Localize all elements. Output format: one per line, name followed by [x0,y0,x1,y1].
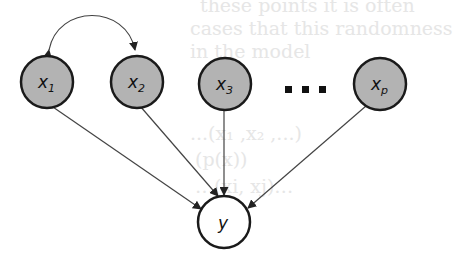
edge-x1-x2-bidirected [49,16,135,51]
edge-x1-y [50,105,201,209]
node-x3: x3 [199,58,251,110]
node-x2: x2 [111,56,163,108]
node-y: y [198,196,250,248]
ellipsis-dots [285,86,326,93]
edge-xp-y [248,106,366,208]
node-x3-sub: 3 [226,84,233,97]
node-x1: x1 [21,56,73,108]
node-xp: xp [354,58,406,110]
node-y-label: y [217,213,229,233]
edges [49,16,366,210]
edge-x2-y [140,106,218,196]
node-x1-sub: 1 [48,82,55,95]
node-x2-sub: 2 [138,82,145,95]
node-xp-sub: p [380,84,388,97]
